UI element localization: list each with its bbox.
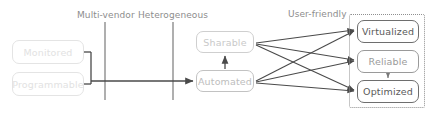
diagram-canvas: Multi-vendor Heterogeneous User-friendly… bbox=[0, 0, 434, 115]
node-optimized-label: Optimized bbox=[363, 86, 413, 97]
stage-label-heterogeneous: Heterogeneous bbox=[138, 10, 208, 20]
edge-automated-optimized-line bbox=[256, 83, 354, 91]
edge-join-bracket bbox=[84, 52, 91, 84]
edge-sharable-virtualized-line bbox=[256, 30, 354, 43]
edge-automated-virtualized-line bbox=[256, 31, 354, 81]
node-virtualized[interactable]: Virtualized bbox=[357, 20, 419, 43]
node-reliable[interactable]: Reliable bbox=[357, 50, 419, 73]
node-optimized[interactable]: Optimized bbox=[357, 80, 419, 103]
node-programmable[interactable]: Programmable bbox=[12, 72, 84, 96]
node-monitored[interactable]: Monitored bbox=[12, 40, 84, 64]
node-sharable[interactable]: Sharable bbox=[196, 31, 254, 53]
stage-label-user-friendly: User-friendly bbox=[288, 9, 347, 19]
node-virtualized-label: Virtualized bbox=[362, 26, 414, 37]
node-automated-label: Automated bbox=[198, 76, 252, 87]
stage-label-multi-vendor: Multi-vendor bbox=[77, 10, 135, 20]
node-monitored-label: Monitored bbox=[23, 47, 72, 58]
edge-automated-reliable-line bbox=[256, 61, 354, 82]
node-sharable-label: Sharable bbox=[203, 37, 246, 48]
node-programmable-label: Programmable bbox=[12, 79, 83, 90]
node-automated[interactable]: Automated bbox=[196, 70, 254, 92]
node-reliable-label: Reliable bbox=[369, 56, 408, 67]
